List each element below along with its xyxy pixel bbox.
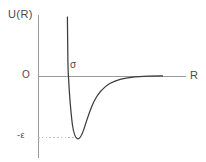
epsilon-tick-label: -ε [17, 130, 25, 140]
potential-curve [67, 17, 162, 139]
chart-canvas [0, 0, 206, 162]
y-axis-label: U(R) [8, 8, 33, 20]
sigma-tick-label: σ [70, 59, 77, 70]
potential-energy-chart: U(R) R O σ -ε [0, 0, 206, 162]
x-axis-label: R [190, 69, 198, 81]
origin-tick-label: O [22, 69, 30, 80]
